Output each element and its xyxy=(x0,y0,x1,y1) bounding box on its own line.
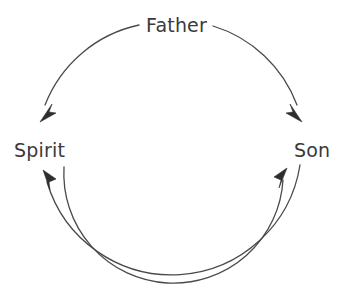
trinity-circle-diagram: Father Spirit Son xyxy=(0,0,342,303)
node-label-son: Son xyxy=(289,139,335,162)
edge-father-to-spirit-path xyxy=(45,25,139,105)
edge-son-to-spirit xyxy=(43,165,300,275)
edge-father-to-son-path xyxy=(213,26,297,105)
edge-spirit-to-son xyxy=(64,167,287,283)
arrowhead-to-son-from-spirit xyxy=(274,168,287,188)
edge-father-to-spirit xyxy=(40,25,139,122)
edge-father-to-son xyxy=(213,26,302,122)
node-label-spirit: Spirit xyxy=(9,139,70,162)
edge-son-to-spirit-path xyxy=(47,165,300,275)
edge-spirit-to-son-path xyxy=(64,167,283,283)
arrowhead-to-son-from-father xyxy=(286,104,302,122)
arrowhead-to-spirit-from-son xyxy=(43,170,56,190)
node-label-father: Father xyxy=(141,14,212,37)
arrowhead-to-spirit-from-father xyxy=(40,104,56,122)
